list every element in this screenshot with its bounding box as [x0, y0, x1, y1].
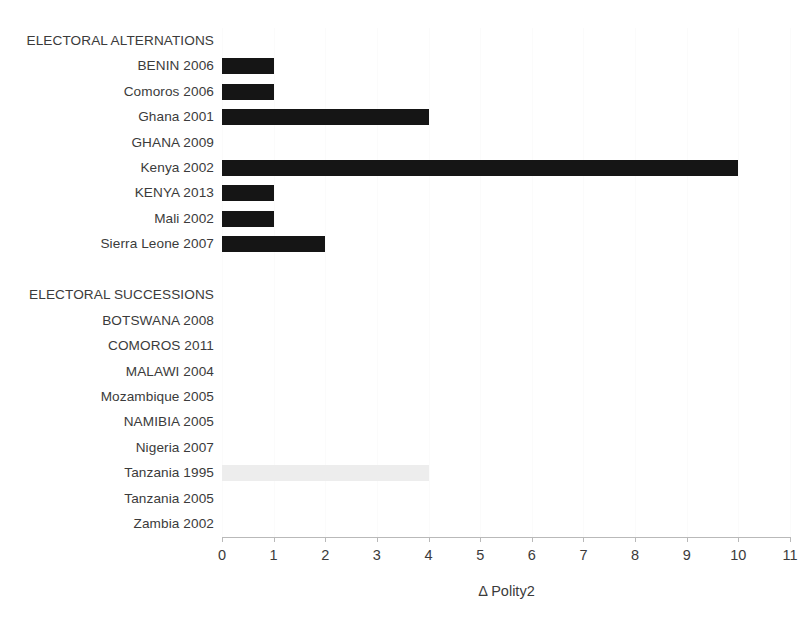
x-axis-tick [583, 537, 584, 542]
category-label: Kenya 2002 [0, 160, 214, 176]
bar [222, 185, 274, 201]
x-axis-tick [274, 537, 275, 542]
gridline [738, 28, 739, 537]
category-label: Ghana 2001 [0, 109, 214, 125]
category-label: GHANA 2009 [0, 135, 214, 151]
category-label: Nigeria 2007 [0, 440, 214, 456]
bar [222, 84, 274, 100]
x-axis-tick-label: 1 [254, 546, 294, 564]
bar [222, 211, 274, 227]
x-axis-tick-label: 11 [770, 546, 806, 564]
category-label: Tanzania 1995 [0, 465, 214, 481]
gridline [635, 28, 636, 537]
x-axis-tick [635, 537, 636, 542]
category-label: KENYA 2013 [0, 185, 214, 201]
x-axis-tick [687, 537, 688, 542]
x-axis-tick [325, 537, 326, 542]
bar [222, 160, 738, 176]
category-label: Tanzania 2005 [0, 491, 214, 507]
x-axis-tick [429, 537, 430, 542]
x-axis-tick-label: 8 [615, 546, 655, 564]
category-label: ELECTORAL SUCCESSIONS [0, 287, 214, 303]
x-axis-tick-label: 2 [305, 546, 345, 564]
gridline [325, 28, 326, 537]
gridline [222, 28, 223, 537]
category-label: Sierra Leone 2007 [0, 236, 214, 252]
x-axis-tick-label: 6 [512, 546, 552, 564]
gridline [480, 28, 481, 537]
x-axis-tick [790, 537, 791, 542]
bar [222, 58, 274, 74]
gridline [790, 28, 791, 537]
bar [222, 236, 325, 252]
x-axis-tick-label: 7 [563, 546, 603, 564]
x-axis-title: Δ Polity2 [222, 583, 791, 599]
category-label: BOTSWANA 2008 [0, 313, 214, 329]
bar [222, 109, 429, 125]
category-label: ELECTORAL ALTERNATIONS [0, 33, 214, 49]
x-axis-tick-label: 3 [357, 546, 397, 564]
x-axis-tick-label: 9 [667, 546, 707, 564]
category-label: BENIN 2006 [0, 58, 214, 74]
gridline [429, 28, 430, 537]
x-axis-tick-label: 4 [409, 546, 449, 564]
category-label: Mali 2002 [0, 211, 214, 227]
gridline [687, 28, 688, 537]
category-label: Mozambique 2005 [0, 389, 214, 405]
category-label: Comoros 2006 [0, 84, 214, 100]
category-label: NAMIBIA 2005 [0, 414, 214, 430]
x-axis-tick-label: 10 [718, 546, 758, 564]
x-axis-tick [738, 537, 739, 542]
x-axis-tick [222, 537, 223, 542]
bar [222, 465, 429, 481]
gridline [274, 28, 275, 537]
bar-chart: ELECTORAL ALTERNATIONSBENIN 2006Comoros … [0, 0, 806, 622]
x-axis-tick [480, 537, 481, 542]
x-axis-tick-label: 0 [202, 546, 242, 564]
x-axis-tick [377, 537, 378, 542]
gridline [532, 28, 533, 537]
x-axis-tick [532, 537, 533, 542]
gridline [377, 28, 378, 537]
category-label: COMOROS 2011 [0, 338, 214, 354]
plot-area [222, 28, 790, 537]
x-axis-line [222, 537, 791, 538]
gridline [583, 28, 584, 537]
category-label: Zambia 2002 [0, 516, 214, 532]
category-label: MALAWI 2004 [0, 364, 214, 380]
x-axis-tick-label: 5 [460, 546, 500, 564]
